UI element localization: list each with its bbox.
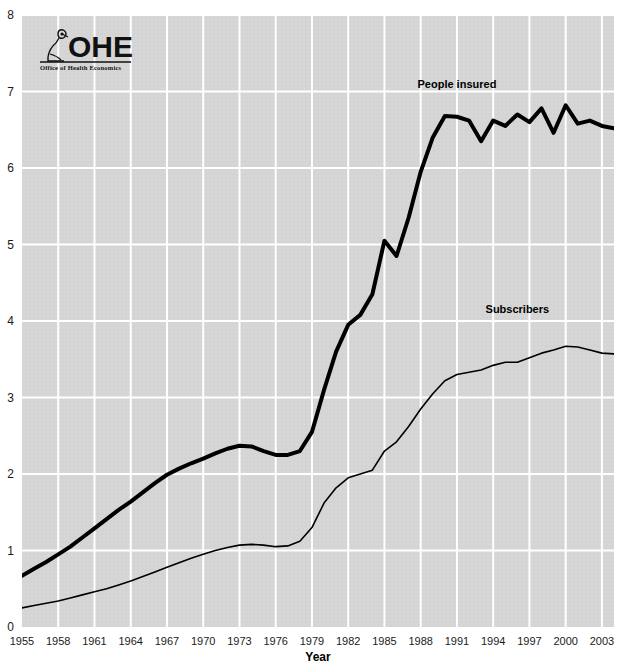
x-axis-title: Year bbox=[305, 650, 331, 664]
y-tick-label: 7 bbox=[7, 85, 14, 99]
x-axis-tick-labels: 1955195819611964196719701973197619791982… bbox=[10, 635, 614, 647]
x-tick-label: 1961 bbox=[82, 635, 106, 647]
logo-subtitle: Office of Health Economics bbox=[40, 64, 121, 71]
line-chart-figure: 012345678 195519581961196419671970197319… bbox=[0, 0, 620, 670]
x-tick-label: 2000 bbox=[553, 635, 577, 647]
x-tick-label: 1985 bbox=[372, 635, 396, 647]
y-tick-label: 4 bbox=[7, 314, 14, 328]
series-label-people-insured: People insured bbox=[418, 78, 497, 90]
x-tick-label: 1994 bbox=[481, 635, 505, 647]
x-tick-label: 1964 bbox=[118, 635, 142, 647]
series-label-subscribers: Subscribers bbox=[486, 303, 550, 315]
y-tick-label: 1 bbox=[7, 544, 14, 558]
x-tick-label: 1970 bbox=[191, 635, 215, 647]
x-tick-label: 1982 bbox=[336, 635, 360, 647]
y-tick-label: 0 bbox=[7, 620, 14, 634]
x-tick-label: 1955 bbox=[10, 635, 34, 647]
x-tick-label: 2003 bbox=[590, 635, 614, 647]
y-tick-label: 3 bbox=[7, 391, 14, 405]
x-tick-label: 1997 bbox=[517, 635, 541, 647]
x-tick-label: 1976 bbox=[263, 635, 287, 647]
y-axis-tick-labels: 012345678 bbox=[7, 8, 14, 634]
y-tick-label: 2 bbox=[7, 467, 14, 481]
x-tick-label: 1958 bbox=[46, 635, 70, 647]
y-tick-label: 6 bbox=[7, 161, 14, 175]
y-tick-label: 8 bbox=[7, 8, 14, 22]
logo-wordmark: OHE bbox=[68, 30, 133, 63]
x-tick-label: 1973 bbox=[227, 635, 251, 647]
chart-container: 012345678 195519581961196419671970197319… bbox=[0, 0, 620, 670]
x-tick-label: 1988 bbox=[408, 635, 432, 647]
y-tick-label: 5 bbox=[7, 238, 14, 252]
x-tick-label: 1967 bbox=[155, 635, 179, 647]
x-tick-label: 1979 bbox=[300, 635, 324, 647]
x-tick-label: 1991 bbox=[445, 635, 469, 647]
